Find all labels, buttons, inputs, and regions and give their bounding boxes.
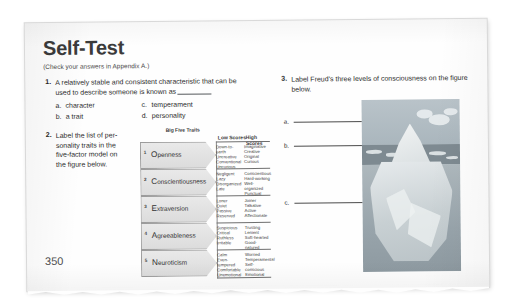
low-score-item: Even-tempered xyxy=(217,257,244,267)
high-score-item: Temperamental xyxy=(245,256,271,261)
page-title: Self-Test xyxy=(43,36,124,60)
big-five-row[interactable]: 3 Extraversion Loner Quiet Passive Reser… xyxy=(138,195,270,222)
trait-rest: xtraversion xyxy=(157,205,188,212)
question-2-text-line4: the figure below. xyxy=(56,159,136,169)
trait-scores: Calm Even-tempered Comfortable Unemotion… xyxy=(217,249,271,276)
question-1-text-line2: used to describe someone is known as xyxy=(55,86,255,98)
page-subtitle: (Check your answers in Appendix A.) xyxy=(43,62,149,70)
trait-name: Extraversion xyxy=(151,204,188,213)
trait-index: 1 xyxy=(141,150,149,155)
trait-index: 5 xyxy=(142,258,150,263)
question-1-option-c-label[interactable]: temperament xyxy=(151,101,192,108)
iceberg-label-c[interactable]: c. xyxy=(284,199,289,206)
trait-scores: Negligent Lazy Disorganized Late Conscie… xyxy=(216,168,270,195)
high-score-item: Hard-working xyxy=(244,175,270,180)
question-1-option-b-label[interactable]: a trait xyxy=(66,113,84,120)
trait-scores: Down-to-earth Uncreative Conventional Un… xyxy=(216,141,270,168)
big-five-traits-figure: Big Five Traits Low Scores High Scores 1… xyxy=(138,126,271,279)
trait-rest: euroticism xyxy=(158,259,187,266)
high-score-item: Self-conscious xyxy=(245,262,271,272)
trait-low-scores: Down-to-earth Uncreative Conventional Un… xyxy=(216,144,243,170)
score-table-bottom-rule xyxy=(217,277,271,279)
trait-high-scores: Worried Temperamental Self-conscious Emo… xyxy=(245,251,271,277)
low-score-item: Reserved xyxy=(217,213,244,218)
textbook-page-sheet: Self-Test (Check your answers in Appendi… xyxy=(25,19,490,291)
trait-high-scores: Joiner Talkative Active Affectionate xyxy=(244,197,270,218)
trait-low-scores: Negligent Lazy Disorganized Late xyxy=(216,171,243,192)
cloud-shape xyxy=(428,115,450,126)
high-score-item: Well-organized xyxy=(244,181,270,191)
iceberg-consciousness-figure: a. b. c. xyxy=(361,99,468,275)
trait-high-scores: Trusting Lenient Soft-hearted Good-natur… xyxy=(245,224,271,250)
question-1-option-a-label[interactable]: character xyxy=(65,102,94,109)
low-score-item: Irritable xyxy=(217,240,244,245)
trait-rest: onscientiousness xyxy=(157,177,206,184)
high-score-item: Curious xyxy=(244,159,270,164)
trait-low-scores: Suspicious Critical Ruthless Irritable xyxy=(217,225,244,246)
trait-name: Neuroticism xyxy=(152,258,187,267)
low-score-item: Down-to-earth xyxy=(216,144,243,154)
trait-index: 2 xyxy=(141,177,149,182)
trait-scores: Suspicious Critical Ruthless Irritable T… xyxy=(217,222,271,249)
question-1-text-line2-label: used to describe someone is known as xyxy=(55,87,176,95)
question-3-text-line2: below. xyxy=(291,82,481,93)
answer-blank-rule xyxy=(177,87,211,94)
iceberg-label-a[interactable]: a. xyxy=(284,118,289,125)
question-3-number: 3. xyxy=(281,75,287,82)
question-2-number: 2. xyxy=(46,131,52,138)
trait-rest: penness xyxy=(157,151,181,158)
trait-scores: Loner Quiet Passive Reserved Joiner Talk… xyxy=(216,195,270,222)
question-1-option-b-letter: b. xyxy=(56,113,62,120)
question-1-number: 1. xyxy=(45,78,51,85)
scanned-page-container: Self-Test (Check your answers in Appendi… xyxy=(0,0,519,307)
high-score-item: Affectionate xyxy=(245,213,271,218)
trait-high-scores: Conscientious Hard-working Well-organize… xyxy=(244,170,270,196)
iceberg-label-b[interactable]: b. xyxy=(284,142,289,149)
big-five-row[interactable]: 5 Neuroticism Calm Even-tempered Comfort… xyxy=(139,249,271,276)
trait-index: 4 xyxy=(142,231,150,236)
big-five-figure-title: Big Five Traits xyxy=(148,126,218,133)
big-five-row[interactable]: 1 Openness Down-to-earth Uncreative Conv… xyxy=(138,141,270,168)
question-1-option-d-label[interactable]: personality xyxy=(152,112,186,119)
trait-low-scores: Loner Quiet Passive Reserved xyxy=(216,198,243,219)
low-score-item: Late xyxy=(216,186,243,191)
big-five-row[interactable]: 2 Conscientiousness Negligent Lazy Disor… xyxy=(138,168,270,195)
trait-name: Conscientiousness xyxy=(151,176,206,186)
trait-name: Agreeableness xyxy=(152,231,196,240)
question-1-option-d-letter: d. xyxy=(142,112,148,119)
trait-name: Openness xyxy=(151,150,182,159)
big-five-row[interactable]: 4 Agreeableness Suspicious Critical Ruth… xyxy=(139,222,271,249)
trait-low-scores: Calm Even-tempered Comfortable Unemotion… xyxy=(217,252,244,278)
trait-index: 3 xyxy=(141,204,149,209)
ice-floe-shape xyxy=(366,150,382,154)
question-1-option-a-letter: a. xyxy=(55,102,61,109)
low-scores-header: Low Scores xyxy=(218,134,246,140)
page-number: 350 xyxy=(45,255,63,267)
ice-floe-shape xyxy=(429,151,447,155)
trait-high-scores: Imaginative Creative Original Curious xyxy=(244,143,270,164)
iceberg-photograph xyxy=(361,99,461,272)
question-1-option-c-letter: c. xyxy=(141,101,147,108)
trait-rest: greeableness xyxy=(157,232,195,239)
